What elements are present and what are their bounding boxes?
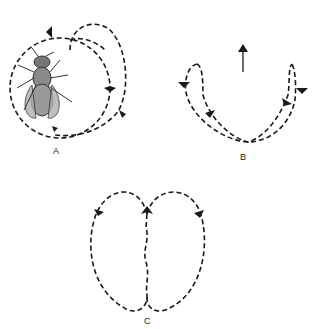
panel-a [10,24,126,138]
diagram-canvas [0,0,318,329]
panel-c-arrows [94,206,204,218]
panel-a-arrows [46,26,126,132]
arrow-icon [194,210,204,218]
label-a: A [53,146,59,156]
arrow-icon [46,26,52,38]
arrow-icon [52,126,58,132]
fly-head [34,56,50,68]
fly-illustration [17,48,72,118]
outer-u-path [185,64,295,142]
inner-circle-path [10,38,110,138]
left-lobe-path [91,192,148,311]
inner-u-path [197,64,292,142]
arrow-icon [178,82,190,88]
up-arrow-icon [238,44,248,52]
right-lobe-path [147,192,205,311]
panel-b [185,64,295,142]
arrow-icon [119,110,126,118]
arrow-icon [296,88,308,94]
arrow-icon [104,86,116,92]
label-c: C [144,316,151,326]
label-b: B [240,152,246,162]
